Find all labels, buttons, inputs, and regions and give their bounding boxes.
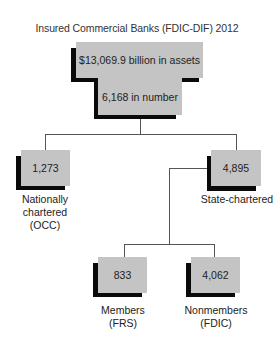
connector-level2-horizontal (124, 244, 215, 245)
connector-state-left (169, 168, 207, 169)
root-assets-box: $13,069.9 billion in assets (76, 42, 203, 78)
national-value: 1,273 (32, 162, 58, 174)
connector-state-down (169, 168, 170, 244)
connector-level1-horizontal (45, 134, 237, 135)
nonmembers-label: Nonmembers (FDIC) (176, 304, 256, 330)
state-label: State-chartered (200, 193, 274, 206)
members-value: 833 (114, 269, 132, 281)
root-number-text: 6,168 in number (102, 91, 178, 103)
members-label: Members (FRS) (88, 304, 158, 330)
national-label: Nationally chartered (OCC) (10, 193, 80, 232)
connector-to-national (45, 134, 46, 150)
root-number-box: 6,168 in number (98, 78, 182, 115)
nonmembers-value: 4,062 (202, 269, 228, 281)
connector-to-members (124, 244, 125, 257)
diagram-title: Insured Commercial Banks (FDIC-DIF) 2012 (0, 22, 274, 34)
nonmembers-box: 4,062 (191, 257, 240, 293)
members-box: 833 (98, 257, 147, 293)
state-box: 4,895 (211, 150, 261, 186)
state-value: 4,895 (223, 162, 249, 174)
connector-to-nonmembers (214, 244, 215, 257)
root-assets-text: $13,069.9 billion in assets (79, 54, 200, 66)
national-box: 1,273 (21, 150, 70, 186)
connector-root-down (140, 119, 141, 134)
connector-to-state (236, 134, 237, 150)
